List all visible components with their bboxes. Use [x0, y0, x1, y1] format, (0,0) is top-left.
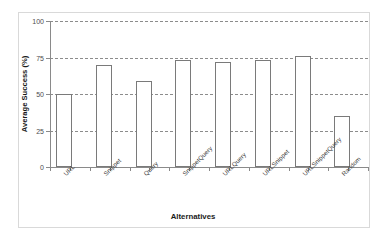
y-axis-title: Average Success (%)	[20, 56, 29, 133]
y-tick-label: 100	[32, 18, 44, 25]
y-axis-line	[50, 21, 51, 168]
y-tick-label: 50	[36, 91, 44, 98]
chart-figure: Average Success (%) 0255075100 Alternati…	[0, 0, 386, 241]
gridline	[50, 58, 368, 59]
x-axis-title: Alternatives	[0, 212, 386, 221]
y-tick-label: 25	[36, 127, 44, 134]
bar-urlsnippetquery	[295, 56, 311, 167]
bar-snippetquery	[175, 60, 191, 167]
bar-urlquery	[215, 62, 231, 167]
x-axis-line	[50, 167, 368, 168]
gridline	[50, 21, 368, 22]
x-tick-mark	[368, 167, 369, 171]
bar-snippet	[96, 65, 112, 167]
y-tick-label: 0	[40, 164, 44, 171]
bar-url	[56, 94, 72, 167]
y-tick-label: 75	[36, 54, 44, 61]
bar-query	[136, 81, 152, 167]
bar-urlsnippet	[255, 60, 271, 167]
